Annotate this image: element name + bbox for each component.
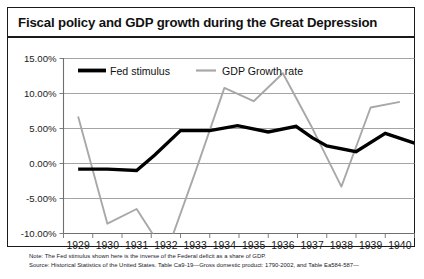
x-axis-tick-label: 1933 xyxy=(184,240,207,251)
y-axis-tick-label: -10.00% xyxy=(21,228,57,239)
axis-lines-group xyxy=(64,58,415,234)
y-axis-tick-label: 10.00% xyxy=(24,88,57,99)
x-axis-tick-label: 1940 xyxy=(388,240,411,251)
source-line: Source: Historical Statistics of the Uni… xyxy=(29,261,421,270)
x-axis-tick-label: 1938 xyxy=(330,240,353,251)
legend-label: Fed stimulus xyxy=(110,65,170,77)
y-axis-ticks-group xyxy=(60,59,64,234)
line-chart-svg: 15.00%10.00%5.00%0.00%-5.00%-10.00% 1929… xyxy=(0,0,424,279)
y-axis-tick-label: -5.00% xyxy=(26,193,57,204)
x-axis-tick-label: 1939 xyxy=(359,240,382,251)
y-axis-tick-label: 15.00% xyxy=(24,53,57,64)
x-axis-tick-label: 1934 xyxy=(213,240,236,251)
x-axis-tick-label: 1937 xyxy=(301,240,324,251)
x-axis-tick-label: 1931 xyxy=(125,240,148,251)
y-axis-labels-group: 15.00%10.00%5.00%0.00%-5.00%-10.00% xyxy=(21,53,57,239)
legend-group: Fed stimulusGDP Growth rate xyxy=(78,65,303,77)
y-axis-tick-label: 5.00% xyxy=(29,123,57,134)
x-axis-tick-label: 1932 xyxy=(154,240,177,251)
chart-footnotes: Note: The Fed stimulus shown here is the… xyxy=(29,252,421,271)
x-axis-tick-label: 1936 xyxy=(271,240,294,251)
x-axis-labels-group: 1929193019311932193319341935193619371938… xyxy=(67,240,412,251)
plot-area: 15.00%10.00%5.00%0.00%-5.00%-10.00% 1929… xyxy=(0,0,424,279)
x-axis-tick-label: 1930 xyxy=(96,240,119,251)
x-axis-ticks-group xyxy=(64,234,415,239)
x-axis-tick-label: 1929 xyxy=(67,240,90,251)
x-axis-tick-label: 1935 xyxy=(242,240,265,251)
y-axis-tick-label: 0.00% xyxy=(29,158,57,169)
chart-figure: Fiscal policy and GDP growth during the … xyxy=(0,0,424,279)
legend-label: GDP Growth rate xyxy=(222,65,303,77)
note-line: Note: The Fed stimulus shown here is the… xyxy=(29,252,421,261)
